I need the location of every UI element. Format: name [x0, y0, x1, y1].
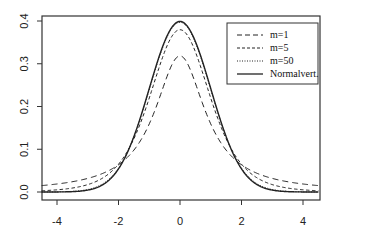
x-tick-label: -4	[52, 215, 62, 227]
x-tick-label: 2	[238, 215, 244, 227]
x-axis: -4-2024	[52, 200, 306, 227]
legend-label-m50: m=50	[270, 55, 293, 66]
legend-label-m1: m=1	[270, 29, 288, 40]
legend-label-normal: Normalvert.	[270, 68, 319, 79]
x-tick-label: 4	[300, 215, 306, 227]
chart: -4-2024 0.00.10.20.30.4 m=1 m=5 m=50 Nor…	[0, 0, 368, 240]
x-tick-label: 0	[177, 215, 183, 227]
y-axis: 0.00.10.20.30.4	[18, 13, 42, 199]
y-tick-label: 0.1	[18, 142, 30, 157]
y-tick-label: 0.0	[18, 184, 30, 199]
x-tick-label: -2	[114, 215, 124, 227]
legend: m=1 m=5 m=50 Normalvert.	[227, 23, 319, 84]
y-tick-label: 0.2	[18, 99, 30, 114]
legend-label-m5: m=5	[270, 42, 288, 53]
y-tick-label: 0.3	[18, 56, 30, 71]
y-tick-label: 0.4	[18, 13, 30, 28]
